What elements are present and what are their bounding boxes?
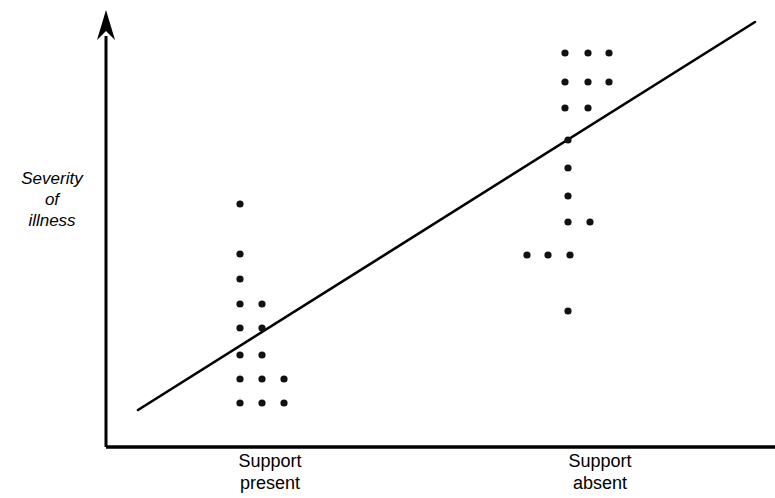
axes-group <box>97 10 775 447</box>
data-point <box>236 250 243 257</box>
data-point <box>584 49 591 56</box>
plot-canvas <box>0 0 775 498</box>
data-point <box>280 399 287 406</box>
data-point <box>564 307 571 314</box>
data-point <box>544 251 551 258</box>
data-point <box>236 351 243 358</box>
data-point <box>564 136 571 143</box>
data-point <box>561 78 568 85</box>
data-point <box>236 300 243 307</box>
data-point <box>258 300 265 307</box>
data-point <box>236 399 243 406</box>
data-point <box>258 399 265 406</box>
data-point <box>523 251 530 258</box>
data-point <box>561 49 568 56</box>
data-point <box>605 78 612 85</box>
data-point <box>564 192 571 199</box>
data-point <box>564 164 571 171</box>
data-point <box>236 324 243 331</box>
trend-line-group <box>138 22 755 410</box>
data-point <box>564 218 571 225</box>
data-point <box>584 78 591 85</box>
data-point <box>258 375 265 382</box>
regression-trend-line <box>138 22 755 410</box>
data-point <box>605 49 612 56</box>
data-point <box>236 375 243 382</box>
data-point <box>258 351 265 358</box>
x-tick-label-support-absent: Support absent <box>512 450 688 494</box>
data-points-support-present <box>236 200 287 406</box>
data-point <box>280 375 287 382</box>
data-point <box>584 104 591 111</box>
data-point <box>258 324 265 331</box>
data-points-support-absent <box>523 49 612 314</box>
data-point <box>566 251 573 258</box>
y-axis-label: Severity of illness <box>6 168 98 231</box>
data-point <box>236 200 243 207</box>
y-axis-arrowhead <box>97 10 115 40</box>
data-point <box>561 104 568 111</box>
data-point <box>236 275 243 282</box>
data-point <box>586 218 593 225</box>
x-tick-label-support-present: Support present <box>182 450 358 494</box>
scatter-plot-figure: Severity of illness Support present Supp… <box>0 0 775 498</box>
